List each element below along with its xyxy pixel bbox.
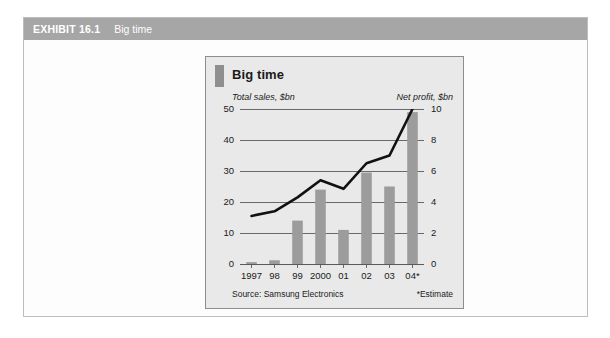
right-tick-label: 2 (431, 227, 453, 238)
right-tick-label: 4 (431, 196, 453, 207)
left-tick-label: 30 (212, 165, 234, 176)
chart-panel: Big time Total sales, $bn Net profit, $b… (205, 56, 464, 309)
left-axis-label: Total sales, $bn (232, 92, 295, 102)
chart-footnote: *Estimate (417, 289, 453, 299)
bar-99 (292, 221, 303, 264)
bar-03 (384, 187, 395, 265)
bar-01 (338, 230, 349, 264)
x-tick-label: 01 (332, 270, 355, 281)
exhibit-number: EXHIBIT 16.1 (33, 23, 100, 35)
chart-source: Source: Samsung Electronics (232, 289, 344, 299)
bar-02 (361, 173, 372, 264)
bar-04 (407, 112, 418, 264)
x-tick-label: 04* (401, 270, 424, 281)
left-tick-label: 20 (212, 196, 234, 207)
right-tick-label: 8 (431, 134, 453, 145)
chart-title: Big time (232, 67, 284, 82)
exhibit-frame: EXHIBIT 16.1 Big time Big time Total sal… (23, 17, 588, 317)
bar-98 (269, 260, 280, 264)
right-axis-label: Net profit, $bn (396, 92, 453, 102)
left-tick-label: 40 (212, 134, 234, 145)
exhibit-caption: Big time (114, 23, 152, 35)
x-tick-label: 1997 (240, 270, 263, 281)
left-tick-label: 10 (212, 227, 234, 238)
x-tick-label: 98 (263, 270, 286, 281)
x-tick-label: 99 (286, 270, 309, 281)
plot-area: 01020304050024681019979899200001020304* (240, 109, 424, 264)
x-tick-label: 02 (355, 270, 378, 281)
exhibit-header: EXHIBIT 16.1 Big time (24, 18, 587, 40)
bar-2000 (315, 190, 326, 264)
right-tick-label: 0 (431, 258, 453, 269)
left-tick-label: 50 (212, 103, 234, 114)
x-tick-label: 03 (378, 270, 401, 281)
x-tick-label: 2000 (309, 270, 332, 281)
bar-1997 (246, 262, 257, 264)
right-tick-label: 6 (431, 165, 453, 176)
chart-canvas (240, 109, 424, 269)
left-tick-label: 0 (212, 258, 234, 269)
right-tick-label: 10 (431, 103, 453, 114)
chart-accent-mark (215, 65, 224, 87)
